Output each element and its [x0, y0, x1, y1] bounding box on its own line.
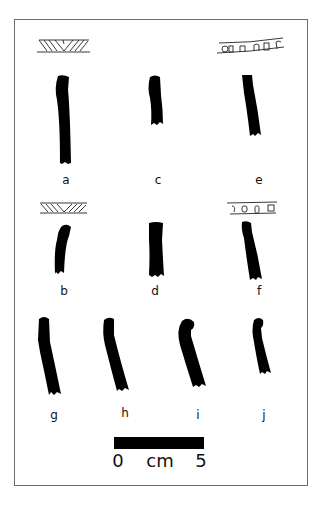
label-d: d	[151, 285, 159, 297]
label-f: f	[257, 285, 261, 297]
label-c: c	[155, 174, 162, 186]
profile-j	[253, 318, 272, 374]
label-e: e	[255, 174, 262, 186]
profile-c	[149, 76, 164, 126]
scale-end-label: 5	[195, 452, 206, 470]
profiles-drawing	[0, 0, 315, 505]
profile-b	[55, 225, 71, 274]
scale-bar	[114, 437, 204, 449]
rim-decoration-a	[37, 40, 90, 52]
label-h: h	[121, 407, 129, 419]
profile-g	[38, 317, 61, 395]
label-j: j	[262, 409, 265, 421]
rim-decoration-e	[217, 38, 284, 53]
profile-i	[178, 319, 206, 387]
label-i: i	[196, 409, 199, 421]
profile-f	[242, 221, 262, 280]
scale-start-label: 0	[112, 452, 123, 470]
profile-e	[242, 75, 261, 136]
label-b: b	[60, 285, 68, 297]
profile-d	[149, 222, 164, 277]
rim-decoration-b	[40, 203, 87, 213]
label-a: a	[62, 174, 69, 186]
profile-h	[103, 318, 129, 391]
profile-a	[56, 75, 71, 164]
label-g: g	[50, 409, 58, 421]
rim-decoration-f	[227, 202, 277, 214]
scale-unit-label: cm	[146, 452, 173, 470]
